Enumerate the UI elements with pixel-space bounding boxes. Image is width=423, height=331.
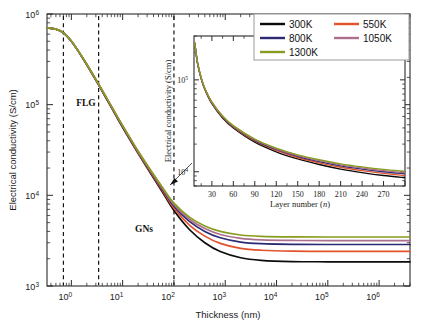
main-y-tick-label: 106 — [25, 8, 39, 20]
inset-x-tick-label: 150 — [292, 190, 304, 199]
legend-label-550K: 550K — [363, 19, 387, 30]
main-x-tick-label: 100 — [59, 291, 73, 303]
main-y-tick-label: 105 — [25, 99, 39, 111]
main-y-axis-label: Electrical conductivity (S/cm) — [7, 89, 18, 210]
main-x-tick-label: 101 — [110, 291, 124, 303]
inset-x-tick-label: 240 — [356, 190, 368, 199]
main-x-tick-label: 103 — [212, 291, 226, 303]
main-x-tick-label: 104 — [264, 291, 278, 303]
legend: 300K550K800K1050K1300K — [254, 14, 409, 60]
inset-x-axis-label: Layer number (n) — [270, 199, 330, 209]
inset-x-tick-label: 30 — [208, 190, 216, 199]
inset-x-tick-label: 210 — [335, 190, 347, 199]
conductivity-vs-thickness-chart: 100101102103104105106 103104105106 Thick… — [0, 0, 423, 331]
annotation-gns: GNs — [135, 224, 153, 234]
inset-chart: 306090120150180210240270 104105 Layer nu… — [163, 36, 405, 209]
legend-label-800K: 800K — [289, 33, 313, 44]
main-x-tick-label: 106 — [366, 291, 380, 303]
legend-label-300K: 300K — [289, 19, 313, 30]
main-y-tick-label: 103 — [25, 280, 39, 292]
inset-y-axis-label: Electrical conductivity (S/cm) — [163, 60, 173, 163]
legend-label-1050K: 1050K — [363, 33, 392, 44]
main-x-tick-labels: 100101102103104105106 — [59, 291, 381, 303]
inset-x-tick-label: 60 — [229, 190, 237, 199]
main-y-tick-label: 104 — [25, 189, 39, 201]
inset-x-tick-label: 270 — [378, 190, 390, 199]
inset-x-tick-label: 90 — [251, 190, 259, 199]
main-x-tick-label: 102 — [161, 291, 175, 303]
main-y-tick-labels: 103104105106 — [25, 8, 39, 292]
inset-x-tick-labels: 306090120150180210240270 — [208, 190, 390, 199]
figure-container: 100101102103104105106 103104105106 Thick… — [0, 0, 423, 331]
legend-label-1300K: 1300K — [289, 47, 318, 58]
inset-x-tick-label: 120 — [270, 190, 282, 199]
main-x-tick-label: 105 — [315, 291, 329, 303]
main-x-axis-label: Thickness (nm) — [196, 309, 261, 320]
annotation-flg: FLG — [76, 98, 96, 108]
inset-x-tick-label: 180 — [313, 190, 325, 199]
